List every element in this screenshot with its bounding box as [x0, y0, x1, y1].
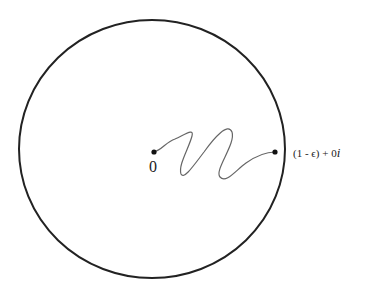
- endpoint-label-main: (1 - ϵ) + 0: [293, 147, 337, 160]
- unit-circle: [19, 20, 285, 278]
- endpoint-label-imag: i: [337, 145, 341, 160]
- origin-label: 0: [149, 158, 157, 175]
- wiggly-path: [154, 129, 275, 179]
- endpoint-label: (1 - ϵ) + 0i: [293, 145, 341, 160]
- endpoint-point: [272, 149, 277, 154]
- diagram-canvas: 0 (1 - ϵ) + 0i: [0, 0, 379, 290]
- origin-point: [151, 149, 156, 154]
